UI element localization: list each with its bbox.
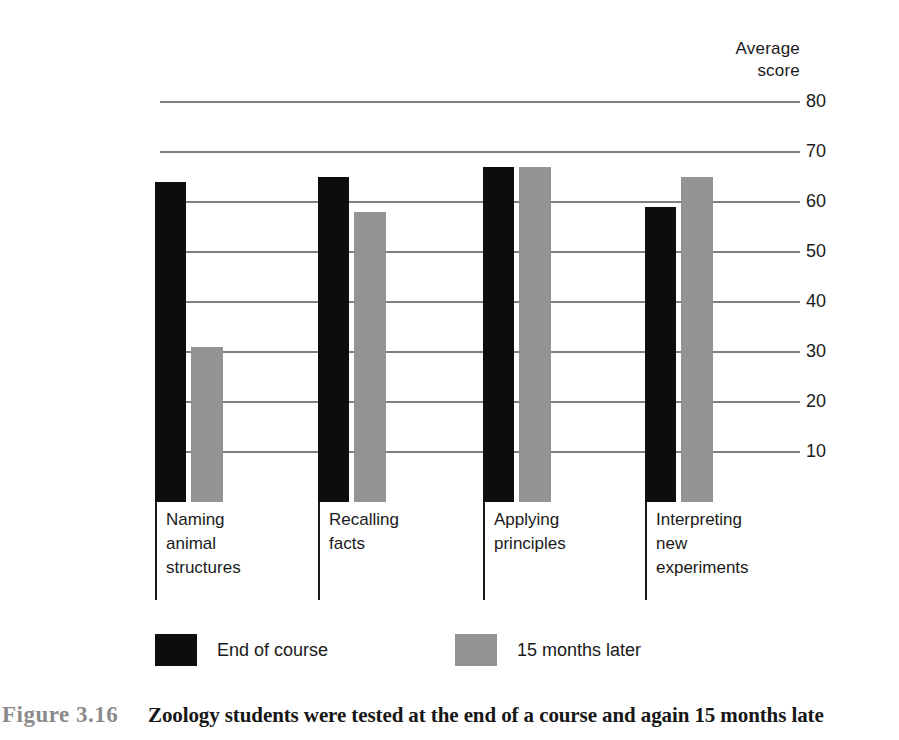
legend-item-15-months-later: 15 months later bbox=[455, 630, 641, 670]
category-label-1: Naminganimalstructures bbox=[166, 508, 241, 580]
y-axis-title-line2: score bbox=[680, 60, 800, 82]
gridline-70 bbox=[160, 151, 800, 153]
y-axis-tick-label-60: 60 bbox=[806, 192, 866, 210]
y-axis-tick-label-20: 20 bbox=[806, 392, 866, 410]
y-axis-tick-label-30: 30 bbox=[806, 342, 866, 360]
chart-plot-area: Average score 8070605040302010 Namingani… bbox=[0, 0, 899, 620]
y-axis-tick-label-80: 80 bbox=[806, 92, 866, 110]
category-tick-2 bbox=[318, 502, 320, 600]
y-axis-title: Average score bbox=[680, 38, 800, 82]
category-label-2-line-1: Recalling bbox=[329, 508, 399, 532]
category-label-3-line-1: Applying bbox=[494, 508, 566, 532]
category-label-2: Recallingfacts bbox=[329, 508, 399, 556]
category-tick-1 bbox=[155, 502, 157, 600]
y-axis-tick-label-40: 40 bbox=[806, 292, 866, 310]
bar-15-months-later-2 bbox=[354, 212, 386, 502]
legend-swatch-icon-black bbox=[155, 634, 197, 666]
y-axis-tick-label-50: 50 bbox=[806, 242, 866, 260]
figure-caption-text: Zoology students were tested at the end … bbox=[148, 703, 824, 728]
legend-item-end-of-course: End of course bbox=[155, 630, 328, 670]
category-label-1-line-3: structures bbox=[166, 556, 241, 580]
bar-end-of-course-3 bbox=[483, 167, 514, 502]
gridline-80 bbox=[160, 101, 800, 103]
category-label-4: Interpretingnewexperiments bbox=[656, 508, 749, 580]
figure-container: Average score 8070605040302010 Namingani… bbox=[0, 0, 899, 740]
category-label-4-line-1: Interpreting bbox=[656, 508, 749, 532]
category-label-3-line-2: principles bbox=[494, 532, 566, 556]
category-tick-4 bbox=[645, 502, 647, 600]
bar-end-of-course-1 bbox=[155, 182, 186, 502]
category-label-3: Applyingprinciples bbox=[494, 508, 566, 556]
category-label-1-line-2: animal bbox=[166, 532, 241, 556]
bar-end-of-course-4 bbox=[645, 207, 676, 502]
bar-end-of-course-2 bbox=[318, 177, 349, 502]
y-axis-tick-label-10: 10 bbox=[806, 442, 866, 460]
category-label-2-line-2: facts bbox=[329, 532, 399, 556]
chart-legend: End of course 15 months later bbox=[0, 630, 899, 680]
category-label-1-line-1: Naming bbox=[166, 508, 241, 532]
legend-swatch-icon-gray bbox=[455, 634, 497, 666]
bar-15-months-later-3 bbox=[519, 167, 551, 502]
y-axis-tick-label-70: 70 bbox=[806, 142, 866, 160]
bar-15-months-later-1 bbox=[191, 347, 223, 502]
y-axis-title-line1: Average bbox=[680, 38, 800, 60]
category-label-4-line-3: experiments bbox=[656, 556, 749, 580]
category-tick-3 bbox=[483, 502, 485, 600]
legend-label-end-of-course: End of course bbox=[217, 640, 328, 660]
category-label-4-line-2: new bbox=[656, 532, 749, 556]
figure-number: Figure 3.16 bbox=[2, 702, 118, 728]
legend-label-15-months-later: 15 months later bbox=[517, 640, 641, 660]
figure-caption: Figure 3.16 Zoology students were tested… bbox=[0, 700, 899, 740]
bar-15-months-later-4 bbox=[681, 177, 713, 502]
